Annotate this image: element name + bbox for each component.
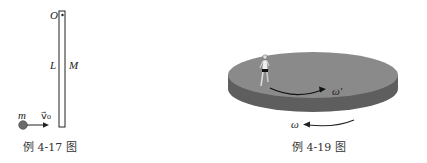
caption-4-17: 例 4-17 图 — [23, 142, 77, 154]
rod-diagram — [0, 0, 130, 163]
figure-4-19: ω′ ω 例 4-19 图 — [200, 0, 427, 163]
disk-top — [228, 52, 398, 98]
mass-label-m-ball: m — [18, 110, 26, 121]
caption-4-19: 例 4-19 图 — [292, 142, 346, 154]
mass-label-m-rod: M — [69, 60, 78, 71]
omega-prime-label: ω′ — [332, 86, 342, 97]
omega-label: ω — [291, 119, 299, 130]
pivot-dot — [61, 14, 63, 16]
velocity-label-v0: v⃗₀ — [41, 110, 51, 121]
pivot-label-o: O — [50, 10, 58, 21]
length-label-l: L — [50, 60, 56, 71]
disk-diagram — [200, 0, 427, 163]
arrow-head-icon — [43, 122, 49, 127]
ball-shape — [19, 121, 28, 130]
rod-shape — [59, 11, 65, 127]
arrow-head-icon — [303, 122, 310, 128]
omega-arrow-line — [308, 120, 354, 126]
figure-4-17: O L M m v⃗₀ 例 4-17 图 — [0, 0, 130, 163]
